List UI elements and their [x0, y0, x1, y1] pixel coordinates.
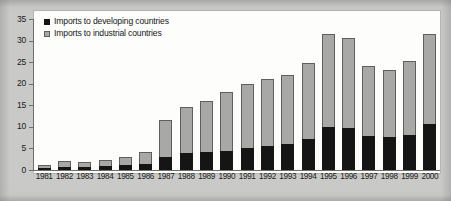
bar-segment-developing	[362, 136, 375, 170]
y-axis-tick-label: 5	[4, 144, 26, 153]
bar-stack	[322, 11, 335, 170]
y-axis-tick-mark	[29, 148, 34, 149]
bar-segment-developing	[423, 124, 436, 170]
bar-stack	[200, 11, 213, 170]
legend-swatch-developing-icon	[44, 19, 50, 25]
bar-stack	[220, 11, 233, 170]
bar-stack	[261, 11, 274, 170]
bar-segment-developing	[322, 127, 335, 170]
bar-stack	[180, 11, 193, 170]
bar-segment-developing	[342, 128, 355, 170]
y-axis-tick-mark	[29, 62, 34, 63]
bar-segment-developing	[200, 152, 213, 170]
bar-stack	[423, 11, 436, 170]
chart-legend: Imports to developing countries Imports …	[44, 16, 169, 40]
bar-segment-developing	[241, 148, 254, 170]
y-axis-tick-mark	[29, 84, 34, 85]
bar-segment-developing	[261, 146, 274, 170]
y-axis-tick-label: 20	[4, 79, 26, 88]
x-axis-labels: 1981198219831984198519861987198819891990…	[34, 173, 440, 187]
bar-segment-developing	[281, 144, 294, 170]
bar-stack	[403, 11, 416, 170]
y-axis-tick-mark	[29, 19, 34, 20]
y-axis-tick-mark	[29, 127, 34, 128]
bar-stack	[241, 11, 254, 170]
y-axis-tick-label: 30	[4, 36, 26, 45]
bar-stack	[302, 11, 315, 170]
bar-stack	[342, 11, 355, 170]
legend-item-developing: Imports to developing countries	[44, 16, 169, 27]
x-axis-line	[33, 170, 440, 171]
bar-segment-developing	[302, 139, 315, 170]
y-axis-tick-label: 35	[4, 15, 26, 24]
y-axis-tick-label: 10	[4, 122, 26, 131]
legend-swatch-industrial-icon	[44, 31, 50, 37]
bar-segment-developing	[383, 137, 396, 170]
y-axis-tick-mark	[29, 41, 34, 42]
chart-figure: 05101520253035 1981198219831984198519861…	[0, 0, 451, 201]
x-axis-tick-label: 2000	[415, 173, 445, 181]
legend-item-industrial: Imports to industrial countries	[44, 28, 169, 39]
y-axis-tick-label: 15	[4, 101, 26, 110]
y-axis-tick-mark	[29, 105, 34, 106]
bar-segment-developing	[159, 157, 172, 170]
y-axis-tick-label: 25	[4, 58, 26, 67]
bar-stack	[362, 11, 375, 170]
bar-stack	[383, 11, 396, 170]
bar-segment-developing	[403, 135, 416, 170]
legend-label-industrial: Imports to industrial countries	[54, 29, 162, 38]
bar-stack	[281, 11, 294, 170]
bar-segment-developing	[180, 153, 193, 170]
bar-segment-developing	[220, 151, 233, 170]
legend-label-developing: Imports to developing countries	[54, 17, 169, 26]
y-axis-tick-label: 0	[4, 166, 26, 175]
